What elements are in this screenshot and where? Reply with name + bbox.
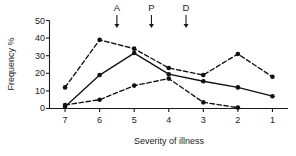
- axis-lines: [50, 21, 289, 109]
- annotation-label-a: A: [114, 2, 121, 13]
- x-tick-label: 7: [63, 115, 68, 125]
- annotation-group: APD: [114, 2, 190, 28]
- y-tick-label: 0: [40, 103, 45, 113]
- data-point-marker: [63, 85, 68, 90]
- y-tick-label: 50: [35, 16, 45, 26]
- data-point-marker: [270, 94, 275, 99]
- data-point-marker: [270, 75, 275, 80]
- x-tick-label: 2: [235, 115, 240, 125]
- annotation-label-d: D: [183, 2, 190, 13]
- data-point-marker: [166, 66, 171, 71]
- data-point-marker: [132, 46, 137, 51]
- y-axis-tick-labels: 50 40 30 20 10 0: [35, 16, 45, 113]
- annotation-arrow-head: [149, 24, 154, 28]
- data-point-marker: [201, 100, 206, 105]
- data-point-marker: [201, 79, 206, 84]
- data-point-marker: [236, 85, 241, 90]
- data-point-marker: [236, 52, 241, 57]
- data-point-marker: [63, 103, 68, 108]
- data-point-marker: [97, 97, 102, 102]
- x-tick-label: 4: [166, 115, 171, 125]
- chart-svg: 50 40 30 20 10 0 7654321 APD Severity of…: [0, 0, 296, 156]
- data-point-marker: [236, 105, 241, 110]
- x-tick-label: 6: [97, 115, 102, 125]
- data-point-marker: [132, 51, 137, 56]
- data-point-marker: [132, 83, 137, 88]
- marker-group: [63, 38, 275, 110]
- annotation-arrow-head: [114, 24, 119, 28]
- y-tick-label: 20: [35, 68, 45, 78]
- data-point-marker: [166, 76, 171, 81]
- data-point-marker: [97, 38, 102, 43]
- annotation-label-p: P: [148, 2, 154, 13]
- data-point-marker: [97, 73, 102, 78]
- x-tick-label: 5: [132, 115, 137, 125]
- data-point-marker: [166, 72, 171, 77]
- x-axis-title: Severity of illness: [134, 136, 205, 146]
- x-axis-tick-labels: 7654321: [63, 115, 275, 125]
- data-point-marker: [201, 73, 206, 78]
- chart-figure: 50 40 30 20 10 0 7654321 APD Severity of…: [0, 0, 296, 156]
- y-tick-label: 40: [35, 33, 45, 43]
- annotation-arrow-head: [184, 24, 189, 28]
- x-tick-label: 1: [270, 115, 275, 125]
- y-axis-title: Frequency %: [6, 37, 16, 90]
- y-tick-label: 10: [35, 86, 45, 96]
- y-tick-label: 30: [35, 51, 45, 61]
- x-tick-label: 3: [201, 115, 206, 125]
